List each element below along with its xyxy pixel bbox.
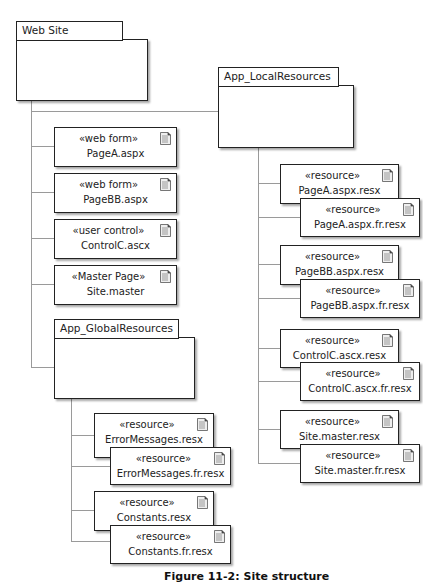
node-errormessages-fr-resx: «resource» ErrorMessages.fr.resx [110, 447, 231, 485]
node-name: ControlC.ascx.resx [281, 350, 398, 362]
document-icon [160, 224, 171, 237]
document-icon [403, 367, 414, 380]
document-icon [382, 334, 393, 347]
figure-caption: Figure 11-2: Site structure [164, 570, 329, 583]
node-controlc-ascx-fr-resx: «resource» ControlC.ascx.fr.resx [300, 362, 420, 401]
node-stereotype: «web form» [55, 133, 176, 145]
node-stereotype: «resource» [281, 251, 398, 263]
connector-to-control-c [31, 238, 54, 239]
document-icon [197, 418, 208, 431]
node-page-bb-aspx: «web form» PageBB.aspx [54, 173, 177, 213]
connector-to-errormessages [71, 435, 94, 436]
node-stereotype: «resource» [95, 419, 213, 431]
connector-to-page-a [31, 146, 54, 147]
package-tab-global-resources: App_GlobalResources [54, 319, 179, 339]
package-body-global-resources [54, 337, 195, 399]
connector-to-constants [71, 510, 94, 511]
document-icon [382, 250, 393, 263]
node-name: ErrorMessages.resx [95, 434, 213, 446]
node-name: PageBB.aspx [55, 194, 176, 206]
node-name: Constants.resx [95, 512, 213, 524]
package-label-global-resources: App_GlobalResources [60, 322, 173, 334]
node-pagea-aspx-fr-resx: «resource» PageA.aspx.fr.resx [300, 198, 420, 237]
connector-to-site-master [31, 284, 54, 285]
document-icon [214, 530, 225, 543]
document-icon [160, 132, 171, 145]
document-icon [160, 178, 171, 191]
node-stereotype: «resource» [281, 170, 398, 182]
node-name: ControlC.ascx [55, 240, 176, 252]
node-stereotype: «Master Page» [55, 271, 176, 283]
node-stereotype: «resource» [301, 204, 419, 216]
connector-to-controlc-resx [258, 348, 280, 349]
node-stereotype: «resource» [95, 497, 213, 509]
node-name: Site.master.resx [281, 431, 398, 443]
connector-to-pagea-fr-resx [258, 217, 300, 218]
document-icon [403, 449, 414, 462]
node-name: Site.master.fr.resx [301, 465, 419, 477]
connector-to-controlc-fr-resx [258, 381, 300, 382]
connector-to-local-resources [31, 111, 219, 112]
package-label-web-site: Web Site [22, 24, 68, 36]
connector-to-pagea-resx [258, 183, 280, 184]
node-stereotype: «user control» [55, 225, 176, 237]
document-icon [160, 270, 171, 283]
connector-to-site-master-resx [258, 429, 280, 430]
package-tab-web-site: Web Site [16, 21, 123, 41]
node-name: PageA.aspx.resx [281, 185, 398, 197]
node-stereotype: «resource» [301, 368, 419, 380]
connector-to-global-resources [31, 367, 54, 368]
package-body-local-resources [218, 85, 354, 148]
node-stereotype: «web form» [55, 179, 176, 191]
connector-to-constants-fr [71, 541, 110, 542]
document-icon [382, 415, 393, 428]
node-stereotype: «resource» [301, 285, 419, 297]
connector-to-page-bb [31, 192, 54, 193]
node-name: PageBB.aspx.fr.resx [301, 300, 419, 312]
node-name: ErrorMessages.fr.resx [111, 468, 230, 480]
document-icon [214, 452, 225, 465]
document-icon [197, 496, 208, 509]
document-icon [403, 203, 414, 216]
package-tab-local-resources: App_LocalResources [218, 67, 339, 87]
document-icon [403, 284, 414, 297]
connector-to-errormessages-fr [71, 466, 110, 467]
node-constants-fr-resx: «resource» Constants.fr.resx [110, 525, 231, 564]
document-icon [382, 169, 393, 182]
node-control-c-ascx: «user control» ControlC.ascx [54, 219, 177, 259]
node-page-a-aspx: «web form» PageA.aspx [54, 127, 177, 167]
connector-to-site-master-fr-resx [258, 463, 300, 464]
package-body-web-site [16, 39, 148, 101]
node-name: Constants.fr.resx [111, 546, 230, 558]
node-name: PageA.aspx.fr.resx [301, 219, 419, 231]
connector-websites-trunk [31, 100, 32, 368]
node-stereotype: «resource» [281, 416, 398, 428]
node-pagebb-aspx-fr-resx: «resource» PageBB.aspx.fr.resx [300, 279, 420, 318]
connector-global-trunk [71, 398, 72, 541]
connector-to-pagebb-fr-resx [258, 298, 300, 299]
node-name: PageBB.aspx.resx [281, 266, 398, 278]
connector-local-trunk [258, 147, 259, 464]
node-name: PageA.aspx [55, 148, 176, 160]
node-stereotype: «resource» [281, 335, 398, 347]
node-stereotype: «resource» [301, 450, 419, 462]
node-stereotype: «resource» [111, 531, 230, 543]
node-stereotype: «resource» [111, 453, 230, 465]
node-site-master: «Master Page» Site.master [54, 265, 177, 305]
connector-to-pagebb-resx [258, 264, 280, 265]
node-site-master-fr-resx: «resource» Site.master.fr.resx [300, 444, 420, 483]
package-label-local-resources: App_LocalResources [224, 70, 331, 82]
node-name: ControlC.ascx.fr.resx [301, 383, 419, 395]
node-name: Site.master [55, 286, 176, 298]
